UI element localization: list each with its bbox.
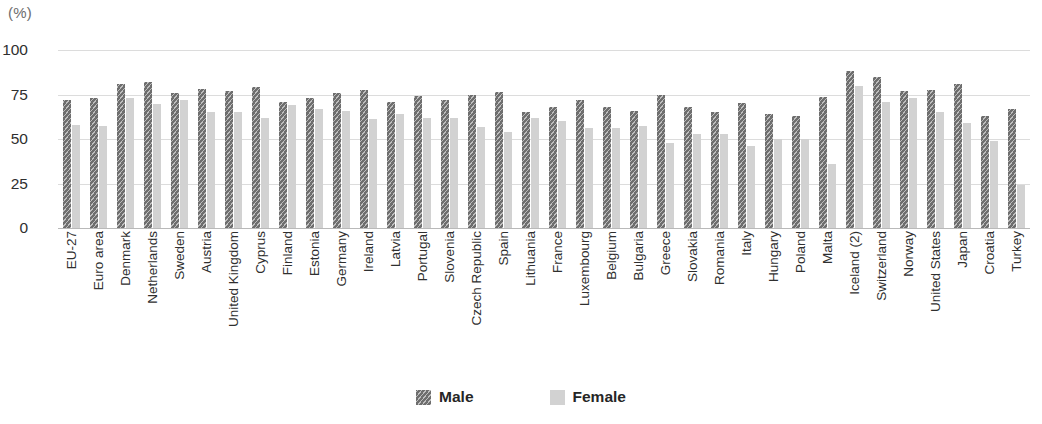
- bar-group: [652, 50, 679, 228]
- x-axis-category: Slovenia: [436, 231, 463, 371]
- y-tick-label-50: 50: [0, 130, 28, 148]
- bar-male: [495, 92, 503, 228]
- x-axis-category: United Kingdom: [220, 231, 247, 371]
- bar-female: [693, 134, 701, 228]
- bar-group: [895, 50, 922, 228]
- bar-female: [234, 112, 242, 228]
- bar-male: [468, 95, 476, 229]
- bar-group: [112, 50, 139, 228]
- bar-female: [315, 109, 323, 228]
- bar-male: [603, 107, 611, 228]
- bar-male: [657, 95, 665, 229]
- x-axis-category-label: Austria: [200, 231, 214, 273]
- bar-male: [333, 93, 341, 228]
- x-axis-category: Finland: [274, 231, 301, 371]
- bar-female: [126, 98, 134, 228]
- bar-female: [720, 134, 728, 228]
- bar-group: [355, 50, 382, 228]
- bar-group: [625, 50, 652, 228]
- x-axis-category-label: United States: [929, 231, 943, 312]
- y-tick-label-0: 0: [0, 219, 28, 237]
- x-axis-category-label: Iceland (2): [848, 231, 862, 295]
- bar-group: [544, 50, 571, 228]
- x-axis-category-label: Sweden: [173, 231, 187, 280]
- bar-male: [900, 91, 908, 228]
- bar-male: [144, 82, 152, 228]
- x-axis-category-label: Malta: [821, 231, 835, 264]
- x-axis-category-label: Ireland: [362, 231, 376, 272]
- bar-female: [1017, 185, 1025, 228]
- x-axis-category: Estonia: [301, 231, 328, 371]
- x-axis-category-label: Finland: [281, 231, 295, 275]
- bar-group: [760, 50, 787, 228]
- bar-female: [963, 123, 971, 228]
- x-axis-category: United States: [922, 231, 949, 371]
- bar-male: [90, 98, 98, 228]
- x-axis-category-label: Czech Republic: [470, 231, 484, 326]
- bar-female: [288, 105, 296, 228]
- bar-group: [166, 50, 193, 228]
- x-axis-category: Netherlands: [139, 231, 166, 371]
- x-axis-category-label: Norway: [902, 231, 916, 277]
- x-axis-category: Norway: [895, 231, 922, 371]
- bar-female: [396, 114, 404, 228]
- bar-male: [360, 90, 368, 228]
- x-axis-category-label: Poland: [794, 231, 808, 273]
- bar-female: [855, 86, 863, 228]
- x-axis-category-label: Netherlands: [146, 231, 160, 304]
- bar-group: [490, 50, 517, 228]
- bar-group: [814, 50, 841, 228]
- x-axis-category: Italy: [733, 231, 760, 371]
- x-axis-category: Greece: [652, 231, 679, 371]
- x-axis-category: Czech Republic: [463, 231, 490, 371]
- solid-light-gray-swatch: [550, 390, 565, 405]
- legend-item-female[interactable]: Female: [550, 388, 626, 406]
- bar-male: [63, 100, 71, 228]
- employment-rate-bar-chart: (%) 1007550250 EU-27Euro areaDenmarkNeth…: [0, 0, 1042, 424]
- bar-male: [117, 84, 125, 228]
- bar-male: [711, 112, 719, 228]
- bar-male: [279, 102, 287, 228]
- bar-male: [441, 100, 449, 228]
- x-axis-category: Malta: [814, 231, 841, 371]
- x-axis-category-label: Estonia: [308, 231, 322, 276]
- x-axis-category-label: Luxembourg: [578, 231, 592, 306]
- bar-female: [639, 126, 647, 228]
- bar-female: [801, 139, 809, 228]
- x-axis-category: Sweden: [166, 231, 193, 371]
- x-axis-category-label: Turkey: [1010, 231, 1024, 272]
- bar-group: [922, 50, 949, 228]
- bar-group: [193, 50, 220, 228]
- x-axis-category: Romania: [706, 231, 733, 371]
- bar-male: [198, 89, 206, 228]
- bar-group: [517, 50, 544, 228]
- chart-legend: MaleFemale: [0, 388, 1042, 406]
- bar-female: [558, 121, 566, 228]
- x-axis-category: Luxembourg: [571, 231, 598, 371]
- bar-male: [684, 107, 692, 228]
- bar-female: [990, 141, 998, 228]
- bar-female: [72, 125, 80, 228]
- x-axis-category-label: Bulgaria: [632, 231, 646, 281]
- bar-male: [846, 71, 854, 228]
- plot-area: 1007550250: [58, 50, 1030, 228]
- bar-female: [774, 139, 782, 228]
- x-axis-category: Bulgaria: [625, 231, 652, 371]
- bar-female: [99, 126, 107, 228]
- bar-male: [576, 100, 584, 228]
- bar-male: [738, 103, 746, 228]
- legend-item-male[interactable]: Male: [416, 388, 473, 406]
- bar-female: [828, 164, 836, 228]
- bar-female: [585, 128, 593, 228]
- bar-male: [873, 77, 881, 228]
- bar-male: [630, 111, 638, 228]
- y-axis-unit-caption: (%): [8, 4, 32, 21]
- x-axis-category: Slovakia: [679, 231, 706, 371]
- bar-female: [369, 119, 377, 228]
- bar-group: [301, 50, 328, 228]
- x-axis-category: Portugal: [409, 231, 436, 371]
- x-axis-category: Ireland: [355, 231, 382, 371]
- bar-male: [414, 96, 422, 228]
- x-axis-category: Austria: [193, 231, 220, 371]
- x-axis-category-label: Greece: [659, 231, 673, 275]
